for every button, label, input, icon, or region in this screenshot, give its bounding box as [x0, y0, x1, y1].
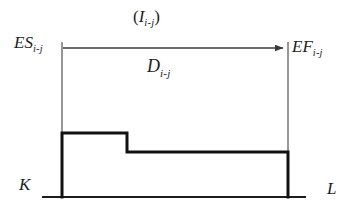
label-node-l: L	[327, 180, 336, 197]
label-early-start-subscript: i-j	[33, 43, 43, 54]
label-interval-subscript: i-j	[144, 17, 154, 28]
figure-canvas: ESi-j EFi-j (Ii-j) Di-j K L	[0, 0, 356, 224]
label-duration-base: D	[147, 56, 160, 76]
resource-step-profile	[62, 133, 288, 197]
label-early-finish: EFi-j	[292, 38, 323, 59]
label-early-finish-base: EF	[292, 37, 313, 56]
diagram-svg	[0, 0, 356, 224]
label-early-start: ESi-j	[14, 34, 43, 55]
label-interval: (Ii-j)	[133, 8, 160, 29]
label-interval-close-paren: )	[154, 7, 160, 26]
label-duration: Di-j	[147, 57, 171, 79]
label-early-start-base: ES	[14, 33, 33, 52]
label-early-finish-subscript: i-j	[313, 47, 323, 58]
label-node-k: K	[19, 176, 30, 193]
label-duration-subscript: i-j	[160, 67, 171, 79]
